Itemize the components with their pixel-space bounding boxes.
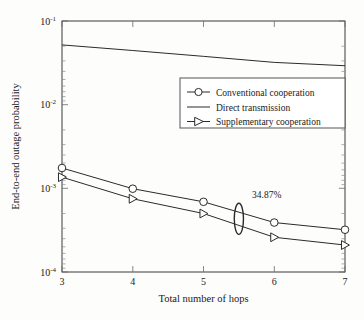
data-point-circle [58,164,66,172]
x-tick-label-3: 6 [272,276,277,287]
annotation-label: 34.87% [252,190,281,200]
legend-label-0: Conventional cooperation [216,88,315,98]
data-point-circle [200,198,208,206]
x-axis-title: Total number of hops [159,293,249,304]
x-tick-label-2: 5 [201,276,206,287]
circle-open-icon [195,88,202,95]
chart-legend: Conventional cooperation Direct transmis… [180,78,345,128]
legend-label-1: Direct transmission [216,103,290,113]
chart-svg: 10-1 10-2 10-3 10-4 3 4 5 6 7 Total numb… [0,0,364,320]
x-tick-label-4: 7 [343,276,348,287]
data-point-circle [270,219,278,227]
legend-label-2: Supplementary cooperation [216,117,321,127]
x-tick-label-1: 4 [130,276,135,287]
x-tick-label-0: 3 [60,276,65,287]
data-point-circle [129,185,137,193]
data-point-circle [341,226,349,234]
outage-probability-chart: 10-1 10-2 10-3 10-4 3 4 5 6 7 Total numb… [0,0,364,320]
y-axis-title: End-to-end outage probability [10,82,21,209]
